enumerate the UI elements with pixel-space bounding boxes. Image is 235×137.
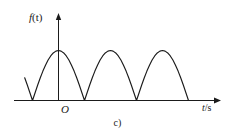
x-axis-label: t/s (202, 103, 211, 113)
figure-caption: c) (0, 118, 235, 128)
waveform-curve (25, 51, 189, 101)
x-axis-arrowhead-icon (214, 98, 221, 104)
y-axis-arrowhead-icon (56, 13, 61, 20)
y-axis-label: f(t) (29, 12, 42, 23)
origin-label: O (61, 104, 69, 115)
x-axis (14, 98, 221, 104)
figure-container: f(t) t/s O c) (0, 0, 235, 137)
y-axis (56, 13, 61, 101)
